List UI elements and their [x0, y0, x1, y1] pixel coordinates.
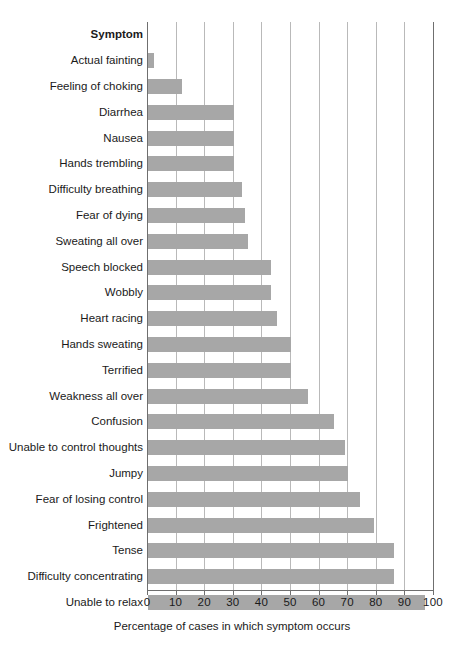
category-label: Speech blocked — [0, 261, 143, 274]
chart-row: Hands trembling — [0, 151, 464, 177]
bar — [148, 337, 291, 352]
x-tick-40 — [261, 590, 262, 595]
category-label: Difficulty breathing — [0, 183, 143, 196]
category-label: Difficulty concentrating — [0, 570, 143, 583]
category-label: Weakness all over — [0, 390, 143, 403]
chart-row: Frightened — [0, 512, 464, 538]
x-tick-70 — [347, 590, 348, 595]
chart-row: Unable to control thoughts — [0, 435, 464, 461]
category-label: Confusion — [0, 415, 143, 428]
x-tick-0 — [147, 590, 148, 595]
bar — [148, 208, 245, 223]
bar — [148, 105, 234, 120]
category-label: Feeling of choking — [0, 80, 143, 93]
x-tick-50 — [290, 590, 291, 595]
category-label: Unable to control thoughts — [0, 441, 143, 454]
bar — [148, 53, 154, 68]
bar — [148, 518, 374, 533]
chart-row: Hands sweating — [0, 332, 464, 358]
bar — [148, 440, 345, 455]
chart-row: Fear of dying — [0, 203, 464, 229]
category-label: Unable to relax — [0, 596, 143, 609]
chart-row: Nausea — [0, 125, 464, 151]
bar — [148, 492, 360, 507]
chart-row: Actual fainting — [0, 48, 464, 74]
chart-row: Confusion — [0, 409, 464, 435]
bar — [148, 311, 277, 326]
category-label: Actual fainting — [0, 54, 143, 67]
bar — [148, 131, 234, 146]
chart-rows: SymptomActual faintingFeeling of choking… — [0, 22, 464, 590]
bar — [148, 285, 271, 300]
category-label: Wobbly — [0, 286, 143, 299]
chart-row: Speech blocked — [0, 254, 464, 280]
chart-row: Difficulty breathing — [0, 177, 464, 203]
x-tick-20 — [204, 590, 205, 595]
chart-row: Feeling of choking — [0, 74, 464, 100]
bar — [148, 156, 234, 171]
category-label: Diarrhea — [0, 106, 143, 119]
category-label: Heart racing — [0, 312, 143, 325]
category-label: Sweating all over — [0, 235, 143, 248]
bar — [148, 234, 248, 249]
category-label: Tense — [0, 544, 143, 557]
chart-row: Terrified — [0, 357, 464, 383]
y-axis-header-label: Symptom — [0, 28, 143, 41]
bar — [148, 182, 242, 197]
category-label: Fear of dying — [0, 209, 143, 222]
chart-row: Wobbly — [0, 280, 464, 306]
x-tick-60 — [319, 590, 320, 595]
x-tick-90 — [404, 590, 405, 595]
x-tick-80 — [376, 590, 377, 595]
category-label: Frightened — [0, 519, 143, 532]
chart-row: Difficulty concentrating — [0, 564, 464, 590]
category-label: Hands sweating — [0, 338, 143, 351]
x-tick-10 — [176, 590, 177, 595]
bar — [148, 363, 291, 378]
bar — [148, 389, 308, 404]
category-label: Jumpy — [0, 467, 143, 480]
chart-row: Weakness all over — [0, 383, 464, 409]
bar — [148, 543, 394, 558]
x-tick-label-100: 100 — [413, 596, 453, 608]
category-label: Hands trembling — [0, 157, 143, 170]
chart-row: Jumpy — [0, 461, 464, 487]
x-tick-100 — [433, 590, 434, 595]
bar — [148, 79, 182, 94]
bar — [148, 466, 348, 481]
bar-chart-figure: SymptomActual faintingFeeling of choking… — [0, 0, 464, 658]
chart-row: Fear of losing control — [0, 486, 464, 512]
category-label: Fear of losing control — [0, 493, 143, 506]
chart-row: Sweating all over — [0, 228, 464, 254]
category-label: Nausea — [0, 132, 143, 145]
bar — [148, 260, 271, 275]
chart-row: Tense — [0, 538, 464, 564]
y-axis-header-row: Symptom — [0, 22, 464, 48]
x-tick-30 — [233, 590, 234, 595]
category-label: Terrified — [0, 364, 143, 377]
chart-row: Diarrhea — [0, 99, 464, 125]
x-axis-title: Percentage of cases in which symptom occ… — [0, 620, 464, 632]
bar — [148, 569, 394, 584]
bar — [148, 414, 334, 429]
chart-row: Heart racing — [0, 306, 464, 332]
